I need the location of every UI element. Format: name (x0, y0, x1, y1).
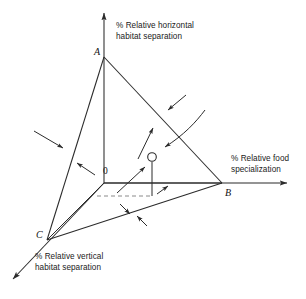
axis-lines (13, 13, 287, 279)
axis-label-vertical-habitat: % Relative vertical habitat separation (35, 252, 103, 273)
arrow-left-inner-inward (77, 163, 95, 175)
triangle-abc (47, 57, 222, 240)
arrow-left-outer-inward (34, 131, 63, 148)
edge-a-b (104, 57, 222, 183)
vertex-label-a: A (94, 46, 100, 57)
triangle-niche-diagram: % Relative horizontal habitat separation… (0, 0, 306, 299)
origin-label: 0 (103, 166, 108, 176)
arrow-origin-up-right (117, 167, 145, 193)
arrow-base-from-below (137, 216, 147, 226)
edge-c-b (47, 183, 222, 240)
arrow-base-from-above (120, 204, 130, 214)
vertex-label-c: C (36, 229, 43, 240)
data-point-marker (148, 153, 157, 162)
arrow-top-right-inward (168, 95, 186, 110)
axis-label-horizontal-habitat: % Relative horizontal habitat separation (116, 21, 194, 42)
annotation-arrows (34, 95, 205, 226)
arrow-base-small-up-right (157, 186, 168, 194)
arrow-center-up-right (138, 128, 153, 159)
vertex-label-b: B (225, 187, 231, 198)
axis-label-food-specialization: % Relative food specialization (231, 154, 289, 175)
